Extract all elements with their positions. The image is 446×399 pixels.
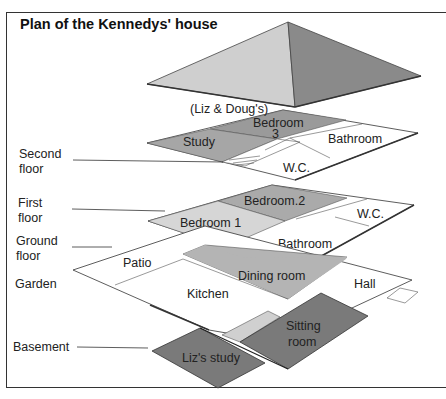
label-first-floor-line2: floor [18, 211, 42, 226]
room-study: Study [183, 135, 216, 149]
label-ground-floor: Ground floor [16, 234, 58, 264]
owner-note: (Liz & Doug's) [190, 102, 268, 116]
label-first-floor-line1: First [18, 196, 42, 211]
room-liz-study: Liz's study [182, 351, 241, 365]
room-sitting-line1: Sitting [286, 319, 321, 333]
room-patio: Patio [123, 256, 152, 270]
room-second-wc: W.C. [283, 161, 310, 175]
room-hall: Hall [354, 277, 376, 291]
roof [147, 22, 421, 107]
room-dining: Dining room [238, 269, 305, 283]
label-garden: Garden [15, 277, 57, 292]
room-sitting-line2: room [288, 335, 316, 349]
room-first-wc: W.C. [357, 207, 384, 221]
label-second-floor-line1: Second [19, 147, 61, 162]
room-bedroom2: Bedroom.2 [244, 194, 305, 208]
room-second-bathroom: Bathroom [328, 132, 382, 146]
second-floor: Study Bedroom 3 Bathroom W.C. (Liz & Dou… [147, 102, 418, 180]
label-ground-floor-line2: floor [16, 249, 58, 264]
room-kitchen: Kitchen [187, 287, 229, 301]
label-second-floor-line2: floor [19, 162, 61, 177]
label-first-floor: First floor [18, 196, 42, 226]
label-basement: Basement [13, 340, 69, 355]
room-bedroom3-line2: 3 [272, 127, 279, 141]
ground-floor: Patio Dining room Kitchen Hall [73, 226, 418, 342]
label-second-floor: Second floor [19, 147, 61, 177]
label-ground-floor-line1: Ground [16, 234, 58, 249]
